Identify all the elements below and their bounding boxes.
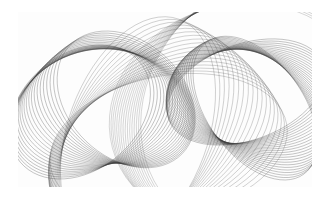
ellipse-pattern — [18, 12, 312, 187]
abstract-line-artwork — [0, 0, 328, 200]
ellipse-stroke — [18, 12, 275, 187]
right-lens-cluster — [153, 14, 312, 187]
artwork-canvas — [18, 12, 312, 187]
